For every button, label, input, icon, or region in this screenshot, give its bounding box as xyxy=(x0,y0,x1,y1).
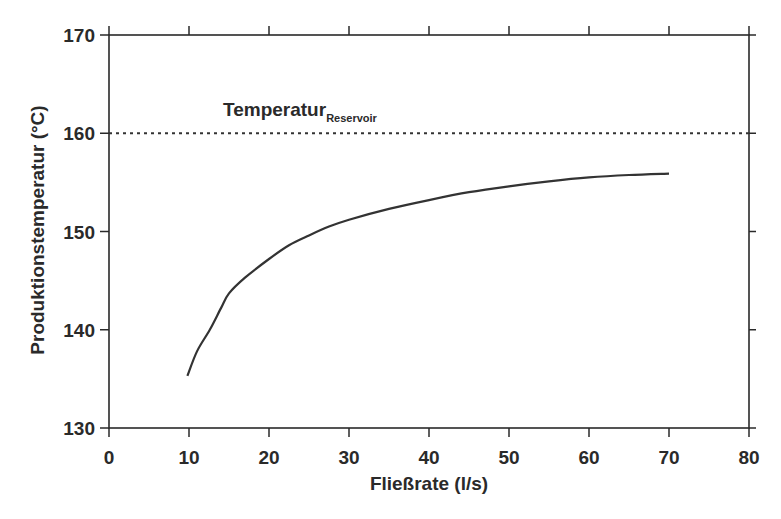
annotation-subscript: Reservoir xyxy=(326,112,377,124)
annotation-main-text: Temperatur xyxy=(223,99,327,120)
plot-frame xyxy=(109,35,749,428)
axis-ticks xyxy=(100,26,756,437)
x-tick-label: 70 xyxy=(658,447,679,468)
line-chart: 01020304050607080130140150160170 Tempera… xyxy=(0,0,781,519)
production-temperature-curve xyxy=(187,174,669,376)
x-axis-label: Fließrate (l/s) xyxy=(370,473,488,494)
x-tick-label: 80 xyxy=(738,447,759,468)
plot-border xyxy=(109,35,749,428)
reservoir-annotation: TemperaturReservoir xyxy=(223,99,378,124)
y-tick-label: 150 xyxy=(63,222,95,243)
y-tick-label: 140 xyxy=(63,320,95,341)
axis-tick-labels: 01020304050607080130140150160170 xyxy=(63,25,759,468)
x-tick-label: 10 xyxy=(178,447,199,468)
y-axis-label: Produktionstemperatur (°C) xyxy=(27,105,48,354)
x-tick-label: 60 xyxy=(578,447,599,468)
x-tick-label: 50 xyxy=(498,447,519,468)
x-tick-label: 30 xyxy=(338,447,359,468)
y-tick-label: 130 xyxy=(63,418,95,439)
y-tick-label: 160 xyxy=(63,123,95,144)
x-tick-label: 40 xyxy=(418,447,439,468)
y-tick-label: 170 xyxy=(63,25,95,46)
x-tick-label: 20 xyxy=(258,447,279,468)
x-tick-label: 0 xyxy=(104,447,115,468)
